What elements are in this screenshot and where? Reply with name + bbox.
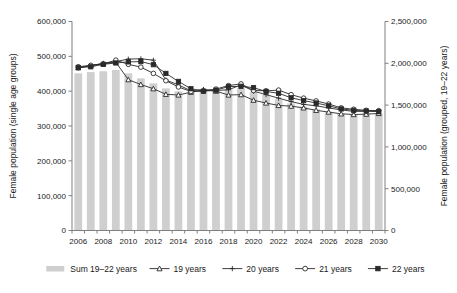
marker-square (201, 89, 205, 93)
x-tick-label-2030: 2030 (370, 237, 388, 246)
legend-label: 21 years (319, 264, 352, 274)
marker-circle (139, 65, 144, 70)
marker-square (189, 87, 193, 91)
marker-circle (151, 71, 156, 76)
bar-2025 (312, 109, 320, 230)
bar-2012 (150, 83, 158, 230)
marker-square (126, 60, 130, 64)
marker-square (151, 63, 155, 67)
marker-square (352, 108, 356, 112)
marker-square (101, 62, 105, 66)
legend-swatch-bar (46, 266, 64, 272)
marker-square (339, 107, 343, 111)
marker-square (376, 266, 380, 270)
y-tick-label-left-200000: 200,000 (37, 157, 66, 166)
x-tick-label-2020: 2020 (245, 237, 263, 246)
marker-square (164, 71, 168, 75)
bar-2006 (74, 73, 82, 230)
y-tick-label-right-2500000: 2,500,000 (391, 17, 427, 26)
marker-square (289, 96, 293, 100)
marker-circle (164, 78, 169, 83)
y-tick-label-left-300000: 300,000 (37, 122, 66, 131)
x-tick-label-2024: 2024 (295, 237, 313, 246)
legend-label: 19 years (174, 264, 207, 274)
x-tick-label-2010: 2010 (119, 237, 137, 246)
marker-square (302, 98, 306, 102)
bar-2008 (99, 71, 107, 230)
bar-2015 (187, 92, 195, 231)
x-tick-label-2008: 2008 (94, 237, 112, 246)
bar-2013 (162, 88, 170, 230)
bar-2016 (200, 91, 208, 231)
x-tick-label-2006: 2006 (69, 237, 87, 246)
bar-2007 (87, 72, 95, 230)
marker-square (76, 65, 80, 69)
y-tick-label-left-0: 0 (62, 226, 67, 235)
marker-square (364, 109, 368, 113)
marker-square (314, 101, 318, 105)
y-tick-label-right-0: 0 (391, 226, 396, 235)
bar-2029 (362, 113, 370, 230)
marker-square (377, 110, 381, 114)
marker-square (327, 104, 331, 108)
bar-2027 (337, 113, 345, 230)
legend-label: 22 years (392, 264, 425, 274)
bar-2020 (250, 92, 258, 231)
y-tick-label-right-500000: 500,000 (391, 185, 420, 194)
legend-label: Sum 19–22 years (70, 264, 137, 274)
x-tick-label-2022: 2022 (270, 237, 288, 246)
bar-2018 (225, 89, 233, 230)
bar-2014 (175, 91, 183, 230)
y-tick-label-left-100000: 100,000 (37, 192, 66, 201)
y-axis-right-title: Female population (grouped, 19–22 years) (439, 46, 449, 207)
bar-2011 (137, 78, 145, 230)
bar-2028 (350, 114, 358, 231)
marker-square (214, 88, 218, 92)
marker-circle (176, 85, 181, 90)
y-axis-left-title: Female population (single age groups) (8, 53, 18, 198)
y-tick-label-right-2000000: 2,000,000 (391, 59, 427, 68)
x-tick-label-2014: 2014 (170, 237, 188, 246)
marker-square (264, 89, 268, 93)
y-tick-label-right-1500000: 1,500,000 (391, 101, 427, 110)
marker-square (114, 61, 118, 65)
bar-2026 (325, 112, 333, 231)
x-tick-label-2016: 2016 (195, 237, 213, 246)
marker-square (89, 65, 93, 69)
y-tick-label-left-600000: 600,000 (37, 17, 66, 26)
y-tick-label-left-400000: 400,000 (37, 87, 66, 96)
x-tick-label-2012: 2012 (144, 237, 162, 246)
x-tick-label-2028: 2028 (345, 237, 363, 246)
x-tick-label-2018: 2018 (220, 237, 238, 246)
y-tick-label-right-1000000: 1,000,000 (391, 143, 427, 152)
population-projection-chart: 0100,000200,000300,000400,000500,000600,… (0, 0, 457, 293)
bar-2009 (112, 70, 120, 231)
bar-2024 (300, 107, 308, 231)
marker-square (176, 79, 180, 83)
marker-circle (303, 266, 308, 271)
bar-2022 (275, 99, 283, 230)
marker-square (276, 91, 280, 95)
marker-square (239, 84, 243, 88)
marker-square (226, 85, 230, 89)
bar-2030 (375, 113, 383, 230)
bar-2023 (287, 103, 295, 230)
bar-2010 (124, 73, 132, 230)
bar-2017 (212, 90, 220, 230)
y-tick-label-left-500000: 500,000 (37, 52, 66, 61)
legend-label: 20 years (246, 264, 279, 274)
x-tick-label-2026: 2026 (320, 237, 338, 246)
bar-2019 (237, 88, 245, 230)
marker-square (251, 86, 255, 90)
marker-square (139, 59, 143, 63)
bar-2021 (262, 95, 270, 230)
